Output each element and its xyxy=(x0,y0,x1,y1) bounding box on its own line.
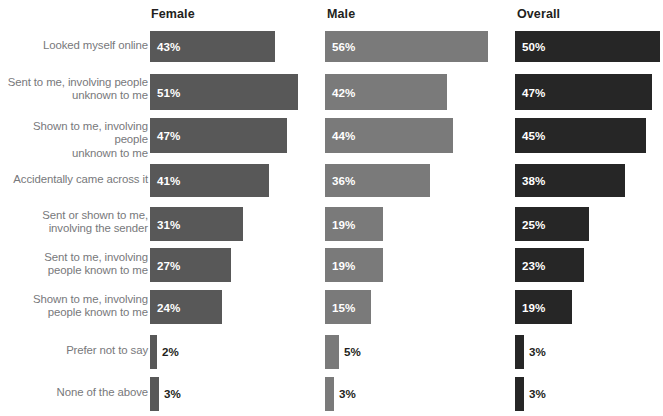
bar-overall xyxy=(515,377,524,411)
bar-male xyxy=(325,335,339,369)
bar-value-female: 43% xyxy=(157,40,180,53)
bar-value-male: 42% xyxy=(332,86,355,99)
bar-value-female: 27% xyxy=(157,259,180,272)
bar-value-male: 44% xyxy=(332,129,355,142)
bar-value-overall: 50% xyxy=(522,40,545,53)
bar-value-female: 47% xyxy=(157,129,180,142)
bar-value-overall: 23% xyxy=(522,259,545,272)
column-header-overall: Overall xyxy=(517,7,560,21)
bar-value-overall: 19% xyxy=(522,301,545,314)
bar-value-male: 36% xyxy=(332,174,355,187)
bar-female xyxy=(150,335,157,369)
bar-value-overall: 3% xyxy=(529,345,546,358)
row-label: Looked myself online xyxy=(43,39,148,52)
bar-value-female: 24% xyxy=(157,301,180,314)
bar-value-overall: 25% xyxy=(522,218,545,231)
bar-value-overall: 47% xyxy=(522,86,545,99)
row-label: Sent to me, involving people known to me xyxy=(44,251,148,278)
bar-female xyxy=(150,377,159,411)
bar-value-female: 3% xyxy=(164,387,181,400)
bar-value-female: 41% xyxy=(157,174,180,187)
bar-value-female: 51% xyxy=(157,86,180,99)
bar-value-male: 5% xyxy=(344,345,361,358)
bar-value-male: 19% xyxy=(332,259,355,272)
bar-value-male: 3% xyxy=(339,387,356,400)
bar-value-overall: 3% xyxy=(529,387,546,400)
bar-value-overall: 45% xyxy=(522,129,545,142)
row-label: Shown to me, involving people known to m… xyxy=(33,293,148,320)
row-label: Sent to me, involving people unknown to … xyxy=(8,76,148,103)
bar-overall xyxy=(515,335,524,369)
bar-value-overall: 38% xyxy=(522,174,545,187)
column-header-male: Male xyxy=(327,7,355,21)
row-label: None of the above xyxy=(57,386,148,399)
row-label: Sent or shown to me, involving the sende… xyxy=(42,209,148,236)
bar-value-male: 19% xyxy=(332,218,355,231)
row-label: Prefer not to say xyxy=(66,344,148,357)
bar-male xyxy=(325,377,334,411)
row-label: Accidentally came across it xyxy=(13,173,148,186)
grouped-bar-chart: Female Male Overall Looked myself online… xyxy=(0,0,663,416)
column-header-female: Female xyxy=(151,7,195,21)
bar-value-female: 2% xyxy=(162,345,179,358)
bar-value-female: 31% xyxy=(157,218,180,231)
bar-value-male: 56% xyxy=(332,40,355,53)
row-label: Shown to me, involving people unknown to… xyxy=(0,120,148,160)
bar-value-male: 15% xyxy=(332,301,355,314)
